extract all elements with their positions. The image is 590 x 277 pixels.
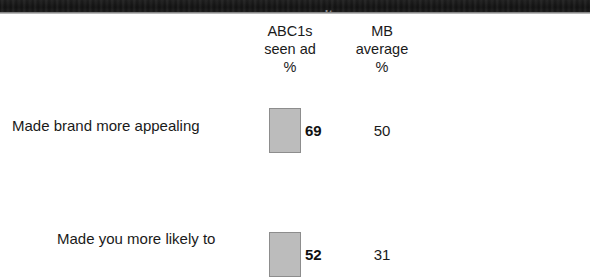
value-abc1s-row-1: 69 [305, 122, 322, 139]
row-label-made-you-more-likely-to: Made you more likely to [57, 229, 215, 248]
row-label-made-brand-more-appealing: Made brand more appealing [12, 116, 200, 135]
value-abc1s-row-2: 52 [305, 246, 322, 263]
bar-abc1s-row-1 [269, 108, 301, 153]
column-header-mb-line2: average [332, 40, 432, 58]
value-mb-row-2: 31 [362, 246, 402, 263]
column-header-mb-line1: MB [332, 22, 432, 40]
row-label-line1: Made you more likely to [57, 229, 215, 248]
header-divider [0, 12, 590, 14]
column-header-mb-line3: % [332, 58, 432, 76]
value-mb-row-1: 50 [362, 122, 402, 139]
bar-abc1s-row-2 [269, 232, 301, 277]
title-band: survey results [0, 0, 590, 12]
column-header-mb-average: MB average % [332, 22, 432, 76]
